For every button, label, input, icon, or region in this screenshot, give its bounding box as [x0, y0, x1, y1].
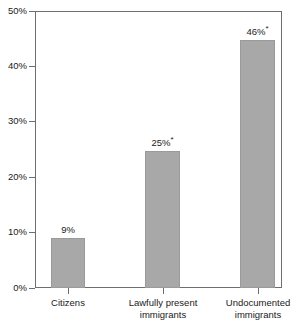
- x-axis-label-undocumented-immigrants-line-2: immigrants: [206, 309, 296, 321]
- x-tick-mark-undocumented-immigrants: [258, 288, 259, 294]
- y-tick-label-20: 20%: [8, 172, 27, 182]
- y-tick-label-30: 30%: [8, 116, 27, 126]
- y-tick-label-10: 10%: [8, 227, 27, 237]
- y-tick-label-50: 50%: [8, 6, 27, 16]
- x-axis-label-citizens-line-1: Citizens: [18, 297, 118, 309]
- bar-value-lawfully-present-immigrants: 25%*: [135, 136, 190, 148]
- x-axis: Citizens Lawfully present immigrants Und…: [0, 288, 296, 327]
- x-axis-label-lawfully-present-immigrants-line-2: immigrants: [108, 309, 218, 321]
- bar-chart: 50% 40% 30% 20% 10% 0% 9% 25%* 46%* Citi…: [0, 0, 296, 327]
- y-tick-label-40: 40%: [8, 61, 27, 71]
- bar-lawfully-present-immigrants[interactable]: [145, 151, 180, 288]
- x-tick-mark-lawfully-present-immigrants: [163, 288, 164, 294]
- x-axis-label-lawfully-present-immigrants-line-1: Lawfully present: [108, 297, 218, 309]
- bars-layer: 9% 25%* 46%*: [35, 11, 282, 288]
- x-axis-label-citizens: Citizens: [18, 297, 118, 309]
- x-axis-label-lawfully-present-immigrants: Lawfully present immigrants: [108, 297, 218, 320]
- x-axis-label-undocumented-immigrants: Undocumented immigrants: [206, 297, 296, 320]
- bar-undocumented-immigrants[interactable]: [240, 40, 275, 288]
- x-axis-label-undocumented-immigrants-line-1: Undocumented: [206, 297, 296, 309]
- bar-citizens[interactable]: [51, 238, 85, 288]
- x-tick-mark-citizens: [68, 288, 69, 294]
- bar-value-citizens: 9%: [41, 224, 95, 235]
- bar-value-undocumented-immigrants: 46%*: [230, 25, 285, 37]
- y-axis: 50% 40% 30% 20% 10% 0%: [0, 0, 35, 327]
